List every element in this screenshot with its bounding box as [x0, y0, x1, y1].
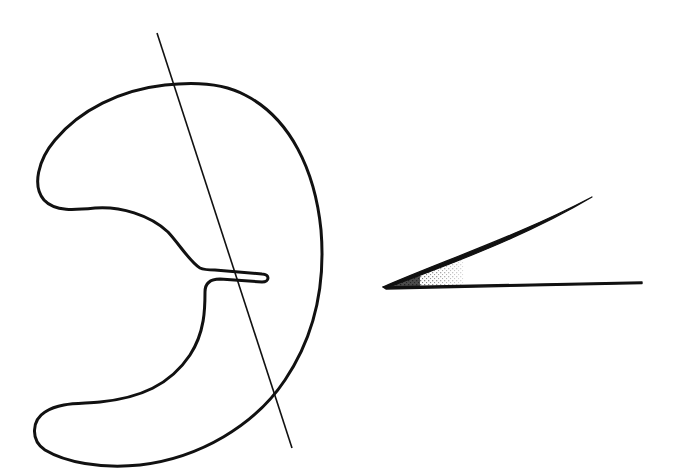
diagram-svg: [0, 0, 673, 476]
angle-wedge: [383, 197, 642, 289]
diagram-canvas: [0, 0, 673, 476]
upper-ray: [383, 197, 592, 288]
cutting-line: [157, 33, 292, 448]
